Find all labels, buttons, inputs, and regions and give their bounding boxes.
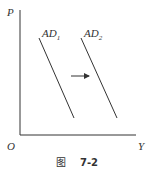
y-axis-label: P bbox=[6, 6, 14, 18]
ad-shift-diagram: P Y O AD1 AD2 图 7-2 bbox=[0, 0, 154, 175]
x-axis-label: Y bbox=[138, 140, 146, 152]
ad2-curve bbox=[81, 38, 117, 118]
figure-caption-prefix: 图 bbox=[56, 157, 66, 168]
figure-caption-number: 7-2 bbox=[80, 157, 98, 168]
ad2-label: AD2 bbox=[83, 27, 103, 42]
ad1-curve bbox=[39, 38, 74, 118]
origin-label: O bbox=[7, 140, 15, 152]
ad1-label: AD1 bbox=[41, 27, 60, 42]
